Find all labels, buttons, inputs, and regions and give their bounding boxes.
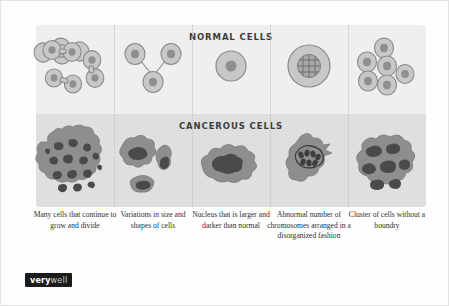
logo-text-very: very xyxy=(30,276,51,285)
normal-cell-illustration-5 xyxy=(348,33,426,103)
caption-5: Cluster of cells without a boundry xyxy=(345,210,429,231)
caption-1: Many cells that continue to grow and div… xyxy=(33,210,117,231)
normal-cell-illustration-1 xyxy=(36,33,114,103)
cancer-cell-illustration-1 xyxy=(36,120,114,205)
column-3 xyxy=(192,25,270,207)
caption-2: Variations in size and shapes of cells xyxy=(111,210,195,231)
column-2 xyxy=(114,25,192,207)
cancer-cell-illustration-2 xyxy=(114,120,192,205)
normal-cell-illustration-2 xyxy=(114,33,192,103)
caption-4: Abnormal number of chromosomes arranged … xyxy=(267,210,351,242)
cancer-cell-illustration-4 xyxy=(270,120,348,205)
column-5 xyxy=(348,25,426,207)
logo-text-well: well xyxy=(51,276,68,285)
infographic-card: NORMAL CELLS CANCEROUS CELLS xyxy=(9,7,442,301)
cancer-cell-illustration-5 xyxy=(348,120,426,205)
column-4 xyxy=(270,25,348,207)
verywell-logo: verywell xyxy=(25,273,72,287)
caption-3: Nucleus that is larger and darker than n… xyxy=(189,210,273,231)
captions-row: Many cells that continue to grow and div… xyxy=(36,210,426,295)
normal-cell-illustration-3 xyxy=(192,33,270,103)
normal-cell-illustration-4 xyxy=(270,33,348,103)
figure-frame: NORMAL CELLS CANCEROUS CELLS xyxy=(0,0,449,306)
cancer-cell-illustration-3 xyxy=(192,120,270,205)
column-1 xyxy=(36,25,114,207)
